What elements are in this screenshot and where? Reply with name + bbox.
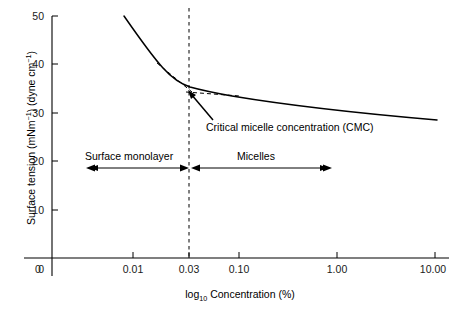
x-tick-label-10-00: 10.00: [409, 264, 455, 275]
y-axis-title-part3: ): [25, 51, 37, 55]
x-tick-label-0: 0: [14, 264, 62, 275]
y-axis-title-part2: ) (dyne cm: [25, 63, 37, 113]
x-axis-title-suffix: Concentration (%): [207, 288, 295, 300]
y-axis-title: Surface tension (mNm−1) (dyne cm−1): [25, 13, 37, 263]
x-tick-label-1-00: 1.00: [313, 264, 361, 275]
surface-tension-chart: 50 40 30 20 10 0 0 0.01 0.03 0.10 1.00 1…: [0, 0, 455, 311]
x-axis-title: log10 Concentration (%): [140, 288, 340, 300]
surface-tension-curve: [124, 16, 437, 120]
x-axis-title-prefix: log: [185, 288, 199, 300]
y-axis-title-sup2: −1: [24, 55, 33, 63]
x-tick-label-0-10: 0.10: [215, 264, 263, 275]
surface-monolayer-label: Surface monolayer: [85, 150, 173, 162]
x-axis-ticks: [133, 252, 435, 258]
micelles-label: Micelles: [237, 150, 275, 162]
cmc-annotation-label: Critical micelle concentration (CMC): [206, 121, 373, 133]
x-tick-label-0-03: 0.03: [165, 264, 213, 275]
micelles-arrow: [191, 165, 332, 172]
y-axis-title-part1: Surface tension (mNm: [25, 121, 37, 225]
y-axis-ticks: [52, 16, 58, 210]
y-axis-title-sup1: −1: [24, 112, 33, 120]
cmc-pointer-arrow: [188, 90, 213, 120]
x-tick-label-0-01: 0.01: [109, 264, 157, 275]
surface-monolayer-arrow: [86, 165, 189, 172]
